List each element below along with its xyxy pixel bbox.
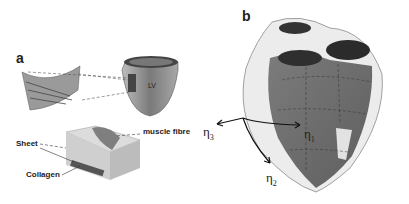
figure-graphics	[0, 0, 409, 204]
eta3-subscript: 3	[210, 133, 214, 142]
eta2-label: η2	[266, 170, 277, 188]
collagen-label: Collagen	[26, 170, 60, 179]
lv-label: LV	[148, 82, 156, 89]
eta2-symbol: η	[266, 170, 273, 185]
eta3-label: η3	[203, 124, 214, 142]
muscle-fibre-label: muscle fibre	[143, 127, 190, 136]
sheet-block	[66, 126, 140, 180]
sheet-label: Sheet	[16, 139, 38, 148]
eta2-subscript: 2	[273, 179, 277, 188]
eta3-symbol: η	[203, 124, 210, 139]
eta1-subscript: 1	[311, 135, 315, 144]
eta1-label: η1	[304, 126, 315, 144]
panel-label-b: b	[242, 8, 251, 24]
tissue-wedge	[22, 66, 80, 110]
heart-model	[243, 18, 382, 192]
panel-label-a: a	[16, 50, 24, 66]
eta1-symbol: η	[304, 126, 311, 141]
